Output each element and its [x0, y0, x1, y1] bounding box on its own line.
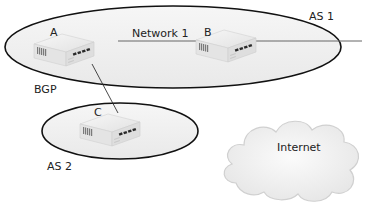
as1-label: AS 1: [309, 11, 334, 22]
bgp-label: BGP: [34, 84, 57, 95]
router-c-label: C: [94, 107, 102, 118]
router-b-label: B: [204, 27, 212, 38]
router-a-label: A: [50, 27, 58, 38]
bgp-diagram: A B C Network 1 AS 1 BGP AS 2 Internet: [0, 0, 373, 206]
network-1-label: Network 1: [132, 28, 188, 39]
internet-label: Internet: [277, 142, 321, 153]
as2-label: AS 2: [47, 161, 72, 172]
internet-cloud: [224, 121, 358, 201]
